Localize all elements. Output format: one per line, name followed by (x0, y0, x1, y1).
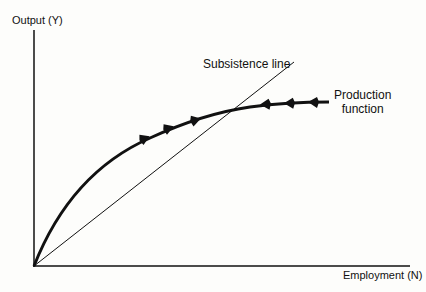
arrow-icon (189, 114, 202, 127)
subsistence-line (34, 62, 294, 266)
production-label-line1: Production (334, 88, 391, 102)
x-axis-label: Employment (N) (343, 269, 422, 281)
production-function-curve (34, 102, 329, 266)
subsistence-line-label: Subsistence line (203, 57, 290, 71)
production-function-label: Production function (334, 88, 391, 116)
diagram-canvas (0, 0, 426, 292)
production-label-line2: function (334, 102, 391, 116)
arrow-icon (284, 98, 295, 109)
arrow-icon (260, 98, 272, 110)
arrow-icon (308, 97, 319, 108)
